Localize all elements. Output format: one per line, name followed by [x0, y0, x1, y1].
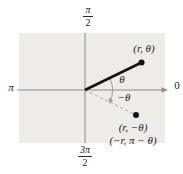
3pi-over-2-denominator: 2: [73, 157, 97, 168]
3pi-over-2-numerator: 3π: [78, 145, 92, 157]
label-point-r-neg-theta: (r, −θ): [109, 121, 157, 133]
point-r-negtheta-dot: [133, 112, 139, 118]
label-angle-neg-theta: −θ: [112, 91, 136, 103]
pi-over-2-numerator: π: [83, 5, 92, 17]
pi-over-2-denominator: 2: [78, 17, 98, 28]
point-r-theta-dot: [139, 60, 145, 66]
polar-coordinates-figure: π 2 π 0 3π 2 (r, θ) θ −θ (r, −θ) (−r, π …: [0, 0, 183, 174]
label-point-r-theta: (r, θ): [124, 42, 164, 54]
label-angle-theta: θ: [114, 73, 130, 85]
axis-label-3pi-over-2: 3π 2: [73, 145, 97, 168]
axis-label-pi: π: [4, 81, 18, 93]
label-point-neg-r-pi-minus-theta: (−r, π − θ): [102, 134, 164, 146]
axis-label-zero: 0: [171, 79, 183, 91]
axis-label-pi-over-2: π 2: [78, 5, 98, 28]
